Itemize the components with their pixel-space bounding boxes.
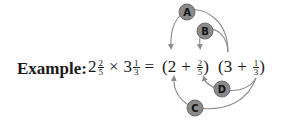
callout-b-label: B bbox=[201, 26, 209, 37]
callout-d: D bbox=[214, 81, 230, 97]
callout-a: A bbox=[179, 4, 195, 20]
callout-c-label: C bbox=[191, 103, 198, 114]
callout-arrows: A B C D bbox=[0, 0, 281, 124]
callout-d-label: D bbox=[218, 84, 226, 95]
callout-b: B bbox=[197, 23, 213, 39]
callout-c: C bbox=[187, 100, 203, 116]
callout-a-label: A bbox=[183, 7, 191, 18]
